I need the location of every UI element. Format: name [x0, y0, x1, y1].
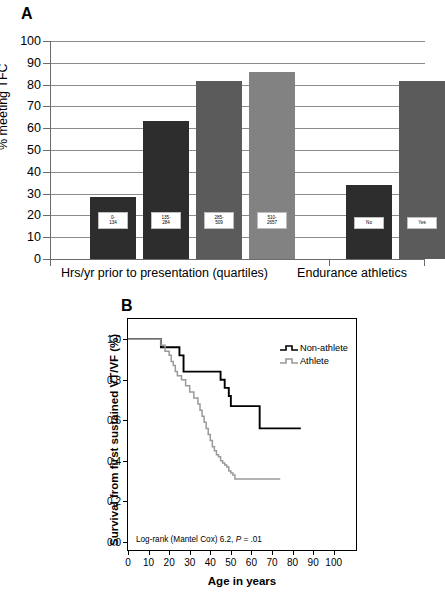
panel-b-x-tick-label: 80 — [287, 557, 298, 568]
panel-a-y-tick-label: 50 — [27, 143, 41, 157]
panel-b-curve-non-athlete — [128, 339, 301, 428]
panel-b-label: B — [121, 297, 133, 315]
panel-a-gridline — [50, 63, 425, 64]
panel-b-x-tick-label: 70 — [266, 557, 277, 568]
panel-a-y-tick — [43, 41, 50, 42]
annotation-prefix: Log-rank (Mantel Cox) 6.2, — [136, 535, 236, 544]
panel-b-y-tick-label: 0.0 — [107, 537, 121, 548]
panel-a-bar-chart: A % meeting TFC 0-134135-284285-509510-2… — [0, 0, 443, 296]
panel-b-y-tick — [123, 380, 128, 381]
panel-a-y-tick-label: 20 — [27, 208, 41, 222]
panel-a-gridline — [50, 41, 425, 42]
panel-b-x-tick-label: 90 — [308, 557, 319, 568]
panel-b-x-tick — [334, 550, 335, 555]
panel-a-bar-category-label: 510-2657 — [257, 212, 287, 229]
panel-b-x-tick — [169, 550, 170, 555]
panel-a-bar: 135-284 — [143, 121, 189, 259]
panel-a-y-tick-label: 90 — [27, 56, 41, 70]
panel-a-bar: 0-134 — [90, 197, 136, 259]
legend-step-glyph-non-athlete — [279, 343, 299, 353]
panel-a-y-tick — [43, 215, 50, 216]
panel-b-y-tick-label: 0.2 — [107, 496, 121, 507]
panel-a-bar: Yes — [399, 81, 445, 259]
legend-entry-athlete: Athlete — [279, 354, 348, 367]
panel-a-y-tick — [43, 194, 50, 195]
panel-a-y-tick — [43, 128, 50, 129]
panel-a-bar-category-label: Yes — [407, 217, 437, 229]
panel-b-y-tick — [123, 542, 128, 543]
panel-b-y-tick — [123, 339, 128, 340]
panel-b-y-axis-title: Survival from first sustained VT/VF (%) — [108, 334, 120, 546]
panel-b-x-axis-title: Age in years — [127, 575, 357, 587]
panel-a-y-tick — [43, 172, 50, 173]
panel-b-survival-chart: B Survival from first sustained VT/VF (%… — [0, 296, 443, 598]
panel-b-x-tick-label: 0 — [125, 557, 131, 568]
panel-a-y-tick-label: 80 — [27, 78, 41, 92]
panel-a-y-tick — [43, 85, 50, 86]
panel-b-y-tick — [123, 461, 128, 462]
panel-a-group-title-endurance: Endurance athletics — [279, 266, 425, 280]
panel-a-y-tick-label: 60 — [27, 121, 41, 135]
panel-b-y-tick-label: 0.6 — [107, 415, 121, 426]
panel-a-y-tick — [43, 259, 50, 260]
panel-a-label: A — [21, 5, 33, 23]
panel-b-x-tick-label: 20 — [164, 557, 175, 568]
panel-b-y-tick — [123, 501, 128, 502]
panel-a-y-tick — [43, 150, 50, 151]
legend-entry-non-athlete: Non-athlete — [279, 341, 348, 354]
panel-a-y-tick-label: 70 — [27, 99, 41, 113]
panel-b-logrank-annotation: Log-rank (Mantel Cox) 6.2, P = .01 — [136, 535, 262, 544]
panel-a-y-tick-label: 100 — [20, 34, 41, 48]
panel-a-y-axis-line — [50, 41, 51, 260]
panel-a-y-tick-label: 10 — [27, 230, 41, 244]
panel-b-x-tick-label: 40 — [205, 557, 216, 568]
panel-b-x-tick — [293, 550, 294, 555]
panel-b-curve-athlete — [128, 339, 280, 479]
panel-b-y-tick-label: 1.0 — [107, 334, 121, 345]
panel-a-y-tick — [43, 63, 50, 64]
legend-step-glyph-athlete — [279, 356, 299, 366]
legend-label-athlete: Athlete — [300, 356, 329, 366]
panel-b-plot-area: Non-athlete Athlete Log-rank (Mantel Cox… — [127, 318, 357, 551]
panel-a-y-tick-label: 30 — [27, 187, 41, 201]
panel-b-x-tick-label: 50 — [225, 557, 236, 568]
panel-b-x-tick — [210, 550, 211, 555]
panel-a-y-tick-label: 0 — [34, 252, 41, 266]
panel-b-y-tick-label: 0.8 — [107, 374, 121, 385]
panel-b-y-tick-label: 0.4 — [107, 455, 121, 466]
panel-a-bar: 510-2657 — [249, 72, 295, 259]
panel-b-x-tick — [149, 550, 150, 555]
panel-b-x-tick-label: 100 — [325, 557, 342, 568]
panel-a-y-axis-title: % meeting TFC — [0, 63, 10, 150]
panel-b-y-tick — [123, 420, 128, 421]
annotation-suffix: = .01 — [241, 535, 262, 544]
panel-b-x-tick — [272, 550, 273, 555]
panel-a-bar: No — [346, 185, 392, 259]
panel-b-x-tick — [313, 550, 314, 555]
panel-b-legend: Non-athlete Athlete — [279, 341, 348, 367]
panel-a-y-tick — [43, 106, 50, 107]
panel-a-bar: 285-509 — [196, 81, 242, 259]
panel-a-bar-category-label: 285-509 — [204, 212, 234, 229]
panel-a-x-axis-line — [50, 259, 425, 260]
panel-b-x-tick — [128, 550, 129, 555]
legend-label-non-athlete: Non-athlete — [300, 343, 348, 353]
panel-b-x-tick-label: 10 — [143, 557, 154, 568]
panel-a-bar-category-label: 0-134 — [98, 212, 128, 229]
panel-b-x-tick — [251, 550, 252, 555]
panel-a-group-title-quartiles: Hrs/yr prior to presentation (quartiles) — [50, 266, 279, 280]
panel-a-bar-category-label: 135-284 — [151, 212, 181, 229]
panel-a-bar-category-label: No — [354, 217, 384, 229]
panel-a-y-tick-label: 40 — [27, 165, 41, 179]
panel-b-x-tick — [231, 550, 232, 555]
panel-b-x-tick-label: 60 — [246, 557, 257, 568]
panel-a-plot-area: 0-134135-284285-509510-2657NoYes 0102030… — [50, 41, 425, 260]
panel-b-x-tick — [190, 550, 191, 555]
panel-b-x-tick-label: 30 — [184, 557, 195, 568]
panel-a-y-tick — [43, 237, 50, 238]
